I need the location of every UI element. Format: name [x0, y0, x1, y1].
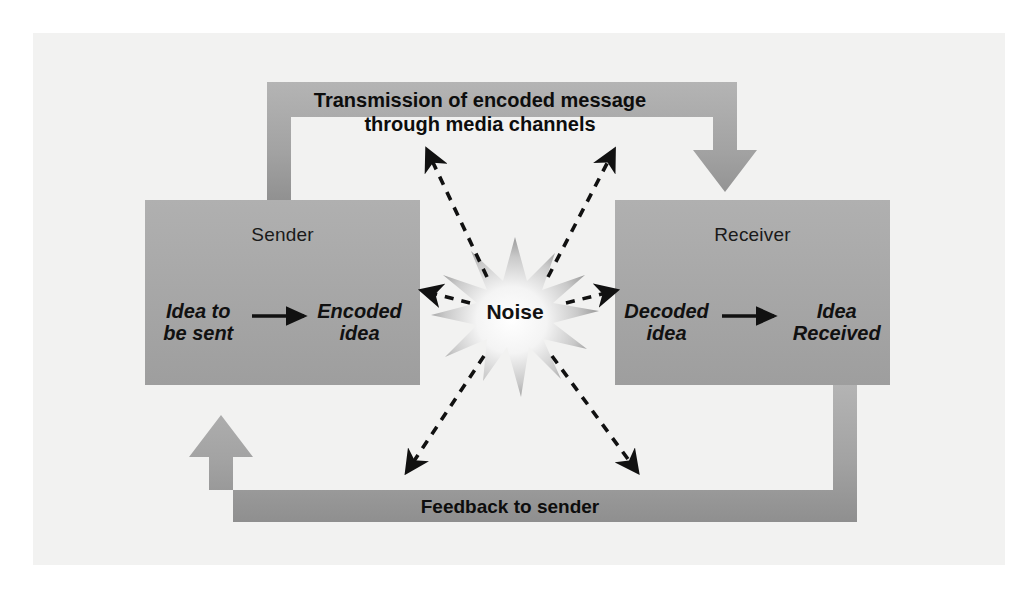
receiver-arrow-spacer: [723, 313, 779, 331]
noise-arrow-up-right-icon: [548, 152, 613, 277]
receiver-terms-row: Decoded idea Idea Received: [615, 292, 890, 352]
sender-title: Sender: [145, 224, 420, 246]
receiver-decoded-idea-label: Decoded idea: [624, 300, 708, 345]
communication-process-figure: Transmission of encoded message through …: [0, 0, 1034, 596]
sender-arrow-spacer: [247, 313, 303, 331]
transmission-band-label: Transmission of encoded message through …: [268, 88, 692, 137]
sender-terms-row: Idea to be sent Encoded idea: [145, 292, 420, 352]
receiver-box-content[interactable]: Receiver Decoded idea Idea Received: [615, 200, 890, 385]
sender-idea-to-be-sent-label: Idea to be sent: [163, 300, 233, 345]
noise-label: Noise: [430, 300, 600, 324]
sender-box-content[interactable]: Sender Idea to be sent Encoded idea: [145, 200, 420, 385]
noise-arrow-up-left-icon: [428, 152, 487, 277]
sender-encoded-idea-label: Encoded idea: [317, 300, 401, 345]
receiver-title: Receiver: [615, 224, 890, 246]
feedback-band-label: Feedback to sender: [300, 495, 720, 518]
receiver-idea-received-label: Idea Received: [793, 300, 881, 345]
